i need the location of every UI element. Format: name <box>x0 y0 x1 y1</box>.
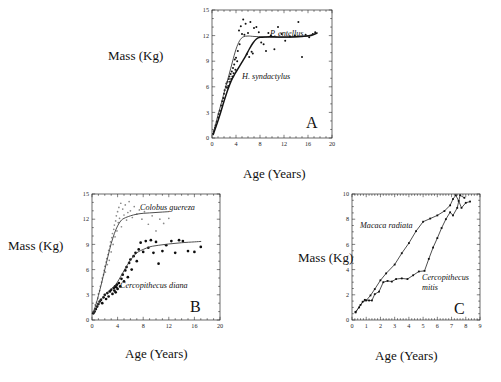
panel-a-label-h-syndactylus: H. syndactylus <box>241 72 290 81</box>
data-point <box>408 242 410 244</box>
panel-a-curve-h-syndactylus <box>213 33 317 135</box>
panel-a-letter: A <box>306 114 318 131</box>
panel-b: 03691215 048121620 Colobus guereza Cerco… <box>70 188 250 343</box>
data-point <box>429 218 431 220</box>
y-tick-label: 4 <box>346 266 349 273</box>
data-point <box>118 207 120 209</box>
data-point <box>382 281 384 283</box>
panel-a-plot: 03691215 048121620 P. entellus H. syndac… <box>190 2 360 162</box>
data-point <box>135 260 138 263</box>
data-point <box>128 201 130 203</box>
data-point <box>231 70 233 72</box>
y-tick-label: 9 <box>86 241 89 248</box>
data-point <box>456 207 458 209</box>
data-point <box>141 218 143 220</box>
data-point <box>101 302 104 305</box>
y-tick-label: 9 <box>206 57 209 64</box>
data-point <box>182 240 185 243</box>
data-point <box>151 215 153 217</box>
data-point <box>449 211 451 213</box>
data-point <box>137 248 140 251</box>
panel-b-letter: B <box>190 298 201 315</box>
data-point <box>463 197 465 199</box>
data-point <box>233 64 235 66</box>
panel-c-plot: 0246810 0123456789 Macaca radiata Cercop… <box>330 188 500 343</box>
data-point <box>111 293 114 296</box>
x-tick-label: 12 <box>166 322 172 329</box>
data-point <box>465 202 467 204</box>
data-point <box>130 268 133 271</box>
data-point <box>174 251 177 254</box>
x-tick-label: 16 <box>191 322 197 329</box>
panel-a-x-axis-title: Age (Years) <box>243 166 306 182</box>
data-point <box>159 218 161 220</box>
data-point <box>458 200 460 202</box>
data-point <box>241 33 243 35</box>
data-point <box>401 252 403 254</box>
x-tick-label: 8 <box>258 140 261 147</box>
x-tick-label: 8 <box>142 322 145 329</box>
data-point <box>258 31 260 33</box>
data-point <box>374 293 376 295</box>
y-tick-label: 15 <box>83 190 89 197</box>
data-point <box>243 34 245 36</box>
x-tick-label: 20 <box>329 140 335 147</box>
x-tick-label: 1 <box>365 322 368 329</box>
data-point <box>114 291 117 294</box>
data-point <box>265 50 267 52</box>
data-point <box>297 21 299 23</box>
panel-a-y-axis-title: Mass (Kg) <box>108 48 163 64</box>
panel-a: 03691215 048121620 P. entellus H. syndac… <box>190 2 360 162</box>
data-point <box>445 218 447 220</box>
data-point <box>395 278 397 280</box>
data-point <box>234 58 236 60</box>
data-point <box>251 51 253 53</box>
data-point <box>116 288 119 291</box>
data-point <box>459 194 461 196</box>
data-point <box>239 43 241 45</box>
y-tick-label: 2 <box>346 291 349 298</box>
data-point <box>114 224 116 226</box>
data-point <box>120 202 122 204</box>
data-point <box>436 215 438 217</box>
panel-b-plot: 03691215 048121620 Colobus guereza Cerco… <box>70 188 250 343</box>
data-point <box>131 217 133 219</box>
data-point <box>284 40 286 42</box>
data-point <box>121 226 123 228</box>
data-point <box>242 18 244 20</box>
figure-root: 03691215 048121620 P. entellus H. syndac… <box>0 0 501 382</box>
panel-c-y-axis-title: Mass (Kg) <box>298 250 353 266</box>
data-point <box>142 251 145 254</box>
panel-b-label-cercopithecus-diana: Cercopithecus diana <box>120 281 188 290</box>
data-point <box>155 241 158 244</box>
data-point <box>428 258 430 260</box>
data-point <box>133 206 135 208</box>
data-point <box>130 210 132 212</box>
y-tick-label: 6 <box>206 83 209 90</box>
data-point <box>126 219 128 221</box>
x-tick-label: 20 <box>217 322 223 329</box>
data-point <box>114 236 116 238</box>
data-point <box>444 210 446 212</box>
data-point <box>245 23 247 25</box>
data-point <box>452 215 454 217</box>
panel-b-label-colobus-guereza: Colobus guereza <box>140 203 195 212</box>
x-tick-label: 5 <box>422 322 425 329</box>
panel-c-label-cercopithecus-mitis-line1: Cercopithecus <box>422 273 469 282</box>
data-point <box>253 27 255 29</box>
y-tick-label: 12 <box>83 215 89 222</box>
data-point <box>378 291 380 293</box>
panel-c-line-cercopithecus-mitis <box>356 195 465 312</box>
y-tick-label: 15 <box>203 6 209 13</box>
data-point <box>401 278 403 280</box>
x-tick-label: 6 <box>436 322 439 329</box>
data-point <box>252 53 254 55</box>
data-point <box>147 223 149 225</box>
data-point <box>232 67 234 69</box>
data-point <box>385 272 387 274</box>
data-point <box>235 57 237 59</box>
y-tick-label: 12 <box>203 32 209 39</box>
y-tick-label: 0 <box>346 316 349 323</box>
data-point <box>277 26 279 28</box>
y-tick-label: 10 <box>343 190 349 197</box>
